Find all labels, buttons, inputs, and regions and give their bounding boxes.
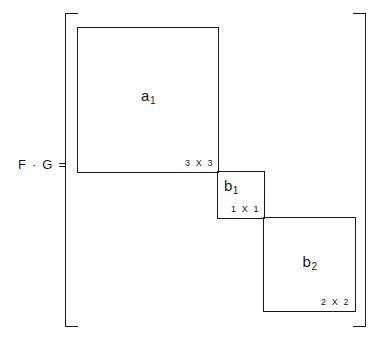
matrix-block-a1-dimension: 3 X 3 <box>185 158 214 168</box>
matrix-block-a1: a1 3 X 3 <box>77 27 219 173</box>
matrix-block-b2-label-base: b <box>303 253 311 270</box>
block-diagonal-matrix-figure: F · G = a1 3 X 3 b1 1 X 1 b2 2 X 2 <box>0 0 382 340</box>
matrix-block-b1-label: b1 <box>224 178 238 193</box>
matrix-block-b1-label-subscript: 1 <box>233 185 239 196</box>
matrix-block-b2-dimension: 2 X 2 <box>321 297 350 307</box>
matrix-block-b1-dimension: 1 X 1 <box>231 204 260 214</box>
matrix-block-b2: b2 2 X 2 <box>263 217 356 312</box>
equation-label: F · G = <box>18 157 67 172</box>
matrix-block-b1: b1 1 X 1 <box>217 171 265 219</box>
matrix-block-b2-label: b2 <box>264 254 355 269</box>
matrix-block-a1-label-subscript: 1 <box>150 95 156 106</box>
matrix-block-a1-label-base: a <box>141 87 149 104</box>
matrix-block-b1-label-base: b <box>224 177 232 194</box>
matrix-block-a1-label: a1 <box>78 88 218 103</box>
matrix-block-b2-label-subscript: 2 <box>311 261 317 272</box>
